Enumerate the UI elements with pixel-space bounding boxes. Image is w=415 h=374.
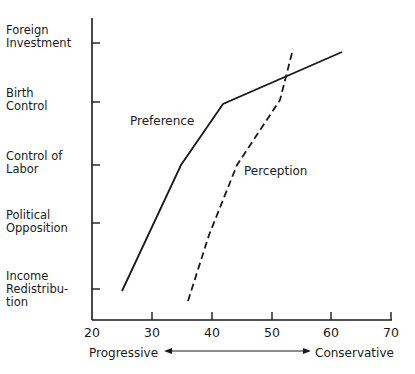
- y-label-income-redistribution: Income Redistribu- tion: [6, 270, 68, 309]
- y-label-line: tion: [6, 296, 68, 309]
- series-label-preference: Preference: [130, 114, 194, 128]
- y-ticks: [92, 43, 100, 289]
- chart-canvas: [0, 0, 415, 374]
- x-tick-label: 20: [84, 325, 100, 340]
- y-label-birth-control: Birth Control: [6, 87, 48, 113]
- series-preference-line: [122, 52, 342, 291]
- y-label-control-of-labor: Control of Labor: [6, 150, 62, 176]
- y-label-line: Control: [6, 100, 48, 113]
- x-label-progressive: Progressive: [89, 346, 158, 360]
- y-label-political-opposition: Political Opposition: [6, 209, 68, 235]
- x-tick-label: 30: [144, 325, 160, 340]
- x-ticks: [152, 312, 391, 320]
- x-tick-label: 40: [204, 325, 220, 340]
- x-tick-label: 60: [323, 325, 339, 340]
- x-tick-label: 50: [264, 325, 280, 340]
- y-label-line: Opposition: [6, 222, 68, 235]
- direction-arrow: [164, 348, 311, 354]
- y-label-line: Labor: [6, 163, 62, 176]
- y-label-foreign-investment: Foreign Investment: [6, 24, 71, 50]
- series-label-perception: Perception: [244, 164, 307, 178]
- x-tick-label: 70: [383, 325, 399, 340]
- y-label-line: Investment: [6, 37, 71, 50]
- x-label-conservative: Conservative: [315, 346, 394, 360]
